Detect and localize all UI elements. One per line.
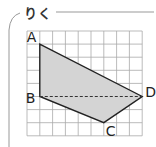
vertex-label-c: C: [106, 123, 116, 139]
vertex-label-d: D: [145, 84, 156, 100]
bracket-line: [9, 13, 20, 147]
quadrilateral-diagram: ABCD: [0, 0, 156, 147]
student-answer-panel: りく ABCD: [0, 0, 156, 147]
vertex-label-a: A: [27, 29, 37, 45]
vertex-label-b: B: [26, 90, 36, 106]
